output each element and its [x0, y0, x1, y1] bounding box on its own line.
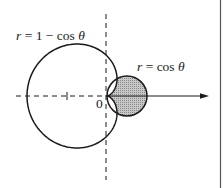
polar-diagram: r = 1 − cos θ r = cos θ 0 — [0, 0, 223, 188]
cardioid-label: r = 1 − cos θ — [16, 28, 85, 43]
origin-label: 0 — [96, 96, 103, 111]
arrowhead-icon — [200, 93, 209, 99]
circle-label: r = cos θ — [137, 59, 185, 74]
